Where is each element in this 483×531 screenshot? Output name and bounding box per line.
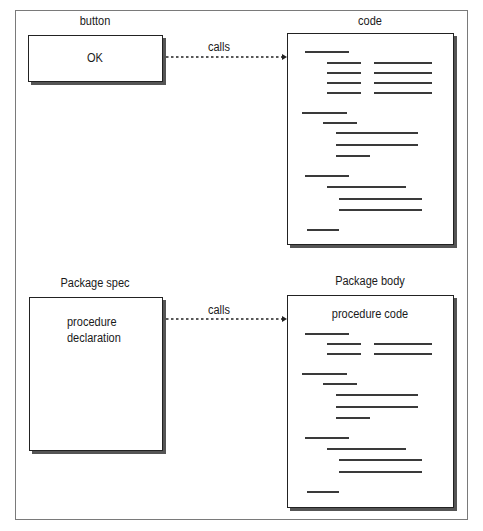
- code-line: [374, 62, 432, 64]
- code-line: [302, 373, 347, 375]
- code-line: [339, 459, 422, 461]
- code-line: [327, 353, 361, 355]
- code-line: [336, 406, 418, 408]
- code-line: [305, 175, 349, 177]
- code-line: [327, 92, 361, 94]
- code-line: [327, 82, 361, 84]
- code-line: [339, 198, 422, 200]
- arrowhead-icon: [282, 316, 287, 322]
- code-line: [339, 471, 422, 473]
- bottom-call-arrow: [166, 316, 287, 322]
- code-line: [327, 343, 361, 345]
- code-line: [374, 82, 432, 84]
- code-line: [323, 122, 357, 124]
- code-line: [302, 112, 347, 114]
- code-line: [305, 51, 349, 53]
- code-line: [336, 132, 418, 134]
- code-line: [305, 437, 349, 439]
- code-line: [307, 229, 339, 231]
- code-line: [327, 62, 361, 64]
- code-line: [336, 155, 370, 157]
- code-line: [374, 353, 432, 355]
- code-line: [374, 343, 432, 345]
- code-line: [327, 72, 361, 74]
- arrowhead-icon: [282, 54, 287, 60]
- code-line: [336, 144, 418, 146]
- code-line: [327, 186, 406, 188]
- code-line: [374, 72, 432, 74]
- code-line: [323, 383, 357, 385]
- code-line: [339, 209, 422, 211]
- top-call-arrow: [166, 54, 287, 60]
- code-line: [336, 394, 418, 396]
- code-line: [336, 417, 370, 419]
- code-line: [327, 448, 406, 450]
- code-line: [305, 333, 349, 335]
- call-arrows: [0, 0, 483, 531]
- code-line: [307, 491, 339, 493]
- code-line: [374, 92, 432, 94]
